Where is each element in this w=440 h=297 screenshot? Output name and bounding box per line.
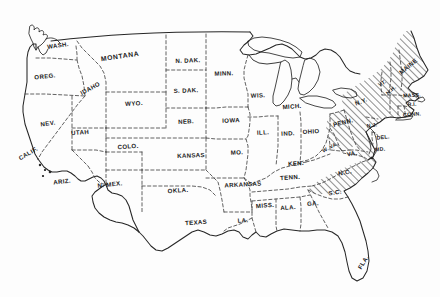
- us-map-svg: [0, 0, 440, 297]
- us-map: WASH.OREG.IDAHOMONTANAN. DAK.S. DAK.MINN…: [0, 0, 440, 297]
